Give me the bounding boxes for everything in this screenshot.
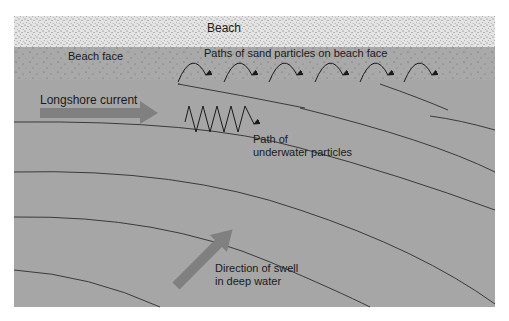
underwater-path-label-1: Path of (253, 133, 288, 145)
longshore-current-label: Longshore current (40, 94, 137, 106)
sand-paths-label: Paths of sand particles on beach face (204, 47, 387, 59)
swell-label-2: in deep water (215, 275, 281, 287)
beach-face-label: Beach face (68, 50, 123, 62)
underwater-path-label-2: underwater particles (253, 146, 352, 158)
beach-area (14, 16, 495, 47)
swell-label-1: Direction of swell (215, 262, 298, 274)
beach-label: Beach (207, 22, 241, 34)
